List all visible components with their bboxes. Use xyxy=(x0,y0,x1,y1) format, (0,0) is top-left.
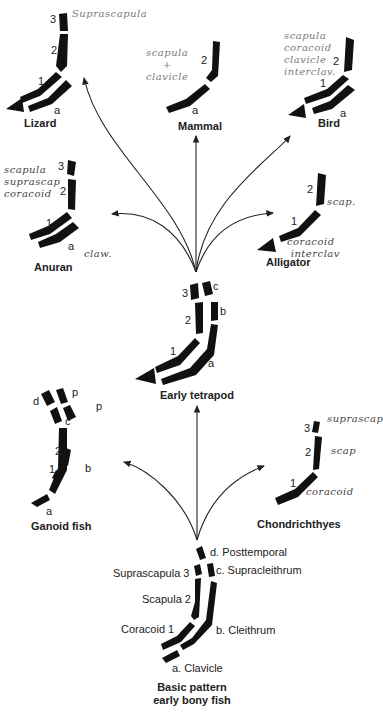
tetrapod-label-b: b xyxy=(220,305,226,317)
tetrapod-label-3: 3 xyxy=(182,287,188,299)
ganoid-label-2: 2 xyxy=(55,445,61,457)
mammal-note: scapula + clavicle xyxy=(146,47,188,83)
basic-title-line1: Basic pattern xyxy=(144,681,240,693)
anuran-note-clav: claw. xyxy=(84,248,112,260)
basic-left-coracoid: Coracoid 1 xyxy=(121,623,174,635)
ganoid-label-b: b xyxy=(85,462,91,474)
ganoid-title: Ganoid fish xyxy=(31,520,92,532)
ganoid-label-a: a xyxy=(46,505,52,517)
alligator-note-scap: scap. xyxy=(327,196,356,208)
tetrapod-title: Early tetrapod xyxy=(160,389,234,401)
lizard-label-a: a xyxy=(54,104,60,116)
basic-right-cleithrum: b. Cleithrum xyxy=(216,624,275,636)
chondrichthyes-note-suprascap: suprascap xyxy=(327,413,383,425)
ganoid-label-d: d xyxy=(33,395,39,407)
mammal-label-a: a xyxy=(192,104,198,116)
lizard-label-1: 1 xyxy=(38,75,44,87)
lizard-label-2: 2 xyxy=(51,44,57,56)
basic-left-scapula: Scapula 2 xyxy=(142,593,191,605)
basic-left-suprascapula: Suprascapula 3 xyxy=(113,567,189,579)
lizard-girdle xyxy=(6,13,72,112)
alligator-note-coracoid: coracoid interclav xyxy=(287,236,340,260)
arrows-basic xyxy=(124,406,264,540)
ganoid-label-c: c xyxy=(65,415,71,427)
anuran-label-2: 2 xyxy=(60,185,66,197)
mammal-title: Mammal xyxy=(178,120,222,132)
alligator-label-1: 1 xyxy=(291,215,297,227)
mammal-label-2: 2 xyxy=(201,54,207,66)
ganoid-label-p2: p xyxy=(96,400,102,412)
tetrapod-label-2: 2 xyxy=(185,314,191,326)
chondrichthyes-label-2: 2 xyxy=(305,446,311,458)
chondrichthyes-label-3: 3 xyxy=(304,422,310,434)
chondrichthyes-label-1: 1 xyxy=(290,477,296,489)
chondrichthyes-note-coracoid: coracoid xyxy=(306,486,354,498)
lizard-label-3: 3 xyxy=(50,13,56,25)
tetrapod-label-1: 1 xyxy=(170,345,176,357)
basic-right-clavicle: a. Clavicle xyxy=(172,662,223,674)
tetrapod-label-a: a xyxy=(208,357,214,369)
early-tetrapod-girdle xyxy=(135,281,218,385)
anuran-label-1: 1 xyxy=(46,217,52,229)
anuran-label-a: a xyxy=(68,240,74,252)
tetrapod-label-c: c xyxy=(213,280,219,292)
alligator-label-2: 2 xyxy=(307,183,313,195)
lizard-note: Suprascapula xyxy=(72,8,147,20)
basic-title-line2: early bony fish xyxy=(140,694,244,706)
chondrichthyes-title: Chondrichthyes xyxy=(257,518,341,530)
bird-note: scapula coracoid clavicle interclav. xyxy=(284,30,336,78)
bird-label-1: 1 xyxy=(320,77,326,89)
ganoid-label-1: 1 xyxy=(49,463,55,475)
bird-title: Bird xyxy=(318,117,340,129)
ganoid-label-p1: p xyxy=(72,386,78,398)
anuran-note: scapula suprascap coracoid xyxy=(4,164,60,200)
basic-right-posttemporal: d. Posttemporal xyxy=(210,546,287,558)
anuran-title: Anuran xyxy=(34,261,73,273)
lizard-title: Lizard xyxy=(24,117,56,129)
bird-label-a: a xyxy=(340,107,346,119)
arrows-tetrapod xyxy=(84,78,290,272)
basic-right-supracleithrum: c. Supracleithrum xyxy=(216,564,302,576)
chondrichthyes-note-scap: scap xyxy=(331,445,356,457)
